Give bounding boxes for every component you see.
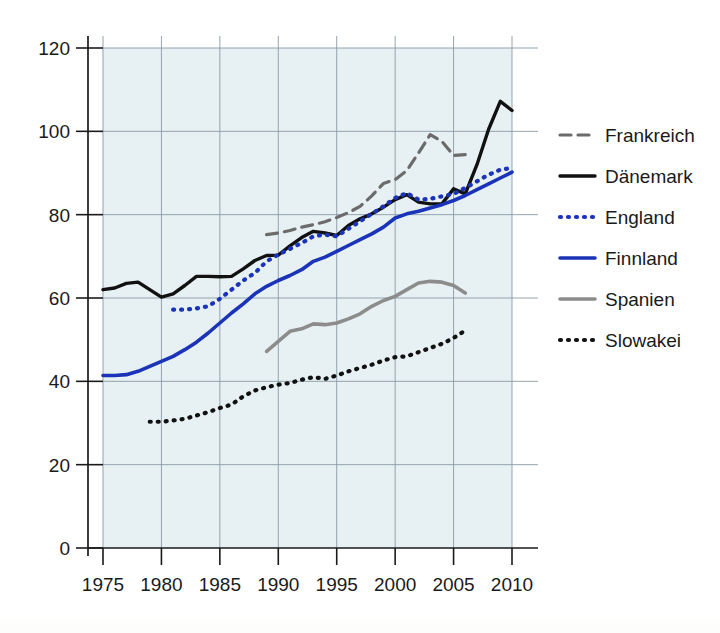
y-tick-label: 60 xyxy=(49,288,70,309)
y-tick-label: 0 xyxy=(59,538,70,559)
y-tick-label: 40 xyxy=(49,371,70,392)
legend-label-finnland: Finnland xyxy=(605,248,678,269)
y-tick-label: 120 xyxy=(38,38,70,59)
x-tick-label: 1990 xyxy=(257,574,299,595)
y-tick-label: 100 xyxy=(38,121,70,142)
x-tick-label: 2005 xyxy=(432,574,474,595)
x-tick-label: 2000 xyxy=(374,574,416,595)
page-bottom-sliver xyxy=(0,619,720,633)
line-chart: 020406080100120 197519801985199019952000… xyxy=(0,0,720,633)
y-tick-label: 80 xyxy=(49,205,70,226)
legend-label-slowakei: Slowakei xyxy=(605,330,681,351)
x-tick-label: 2010 xyxy=(491,574,533,595)
legend-label-dnemark: Dänemark xyxy=(605,166,693,187)
x-tick-label: 1995 xyxy=(316,574,358,595)
legend-label-england: England xyxy=(605,207,675,228)
x-tick-label: 1980 xyxy=(140,574,182,595)
y-tick-label: 20 xyxy=(49,455,70,476)
legend-label-spanien: Spanien xyxy=(605,289,675,310)
x-tick-label: 1975 xyxy=(82,574,124,595)
x-tick-label: 1985 xyxy=(199,574,241,595)
legend-label-frankreich: Frankreich xyxy=(605,125,695,146)
